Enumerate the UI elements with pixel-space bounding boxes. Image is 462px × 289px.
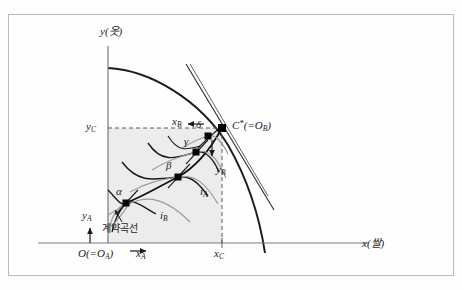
point-marker-gamma [193,149,200,156]
y-axis-label: y(옷) [100,26,122,37]
indifference-curve-a-label: iA [200,186,208,198]
indifference-curve-b-label: iB [160,210,168,222]
figure-root: y(옷) x(쌀) O(=OA) xA yA xC yC xB yB C*(=O… [0,0,462,289]
point-label-beta: β [166,160,171,171]
point-marker-alpha [123,200,130,207]
x-c-tick-label: xC [214,248,224,260]
y-a-axis-label: yA [82,210,91,222]
point-marker-beta [175,174,182,181]
point-label-alpha: α [116,186,122,197]
point-marker-delta [205,133,212,140]
contract-curve-label: 계약곡선 [102,224,138,234]
x-a-axis-label: xA [136,248,145,260]
x-b-axis-label: xB [172,116,181,128]
point-label-delta: δ [196,119,201,130]
point-marker-c-star [218,124,226,132]
point-label-c-star: C*(=OB) [232,119,271,132]
diagram-canvas [0,0,462,289]
y-c-tick-label: yC [86,121,96,133]
x-axis-label: x(쌀) [362,238,384,249]
point-label-gamma: γ [184,136,188,147]
y-b-axis-label: yB [216,164,225,176]
origin-label: O(=OA) [78,248,113,260]
